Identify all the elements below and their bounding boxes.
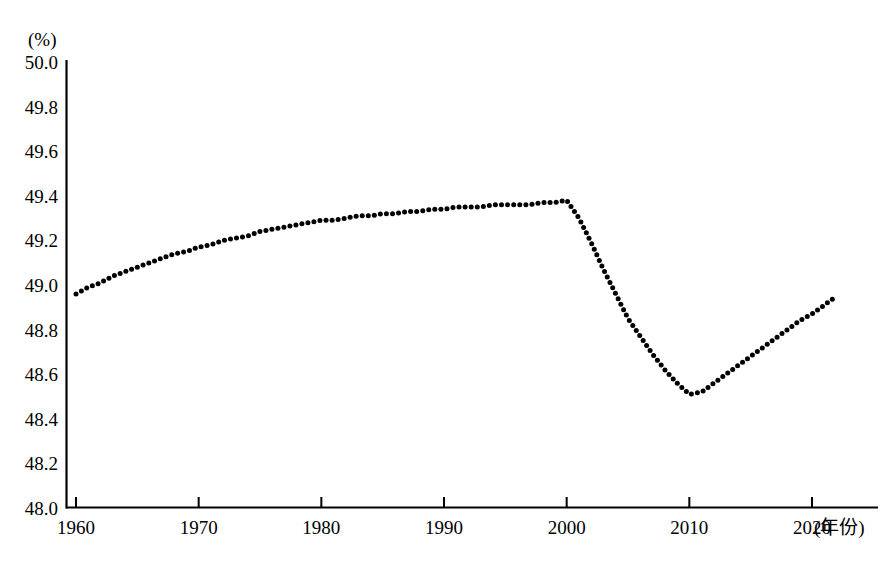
series-dot [299, 221, 304, 226]
series-dot [695, 390, 700, 395]
series-dot [305, 220, 310, 225]
data-series-dotted-line [74, 199, 835, 397]
series-dot [123, 269, 128, 274]
series-dot [765, 342, 770, 347]
series-dot [317, 218, 322, 223]
series-dot [535, 201, 540, 206]
series-dot [152, 258, 157, 263]
series-dot [348, 215, 353, 220]
y-axis-tick-label: 49.8 [0, 97, 58, 116]
series-dot [263, 228, 268, 233]
series-dot [529, 202, 534, 207]
series-dot [146, 260, 151, 265]
series-dot [710, 381, 715, 386]
series-dot [679, 385, 684, 390]
series-dot [384, 211, 389, 216]
series-dot [360, 213, 365, 218]
series-dot [568, 204, 573, 209]
series-dot [725, 371, 730, 376]
series-dot [613, 291, 618, 296]
series-dot [684, 389, 689, 394]
series-dot [671, 376, 676, 381]
series-dot [444, 206, 449, 211]
series-dot [740, 360, 745, 365]
series-dot [199, 244, 204, 249]
series-dot [651, 353, 656, 358]
series-dot [487, 203, 492, 208]
series-dot [554, 200, 559, 205]
series-dot [784, 327, 789, 332]
series-dot [90, 283, 95, 288]
series-dot [169, 252, 174, 257]
series-dot [336, 217, 341, 222]
series-dot [74, 291, 79, 296]
series-dot [706, 385, 711, 390]
series-dot [755, 349, 760, 354]
series-dot [701, 388, 706, 393]
series-dot [469, 204, 474, 209]
series-dot [205, 243, 210, 248]
series-dot [599, 263, 604, 268]
series-dot [578, 219, 583, 224]
series-dot [366, 213, 371, 218]
series-dot [735, 363, 740, 368]
y-axis-tick-label: 48.0 [0, 499, 58, 518]
series-dot [287, 224, 292, 229]
series-dot [675, 381, 680, 386]
series-dot [354, 214, 359, 219]
series-dot [760, 345, 765, 350]
series-dot [542, 200, 547, 205]
series-dot [390, 211, 395, 216]
series-dot [84, 286, 89, 291]
series-dot [481, 204, 486, 209]
series-dot [246, 233, 251, 238]
series-dot [616, 296, 621, 301]
series-dot [432, 207, 437, 212]
series-dot [475, 204, 480, 209]
series-dot [141, 263, 146, 268]
series-dot [181, 250, 186, 255]
series-dot [689, 391, 694, 396]
series-dot [293, 222, 298, 227]
series-dot [228, 237, 233, 242]
series-dot [517, 202, 522, 207]
series-dot [607, 280, 612, 285]
y-axis-tick-label: 49.0 [0, 276, 58, 295]
series-dot [275, 226, 280, 231]
x-axis-tick-label: 1970 [180, 518, 218, 537]
series-dot [621, 307, 626, 312]
series-dot [587, 236, 592, 241]
series-dot [794, 320, 799, 325]
series-dot [715, 378, 720, 383]
series-dot [164, 254, 169, 259]
series-dot [222, 238, 227, 243]
series-dot [624, 313, 629, 318]
series-dot [523, 202, 528, 207]
series-dot [499, 202, 504, 207]
y-axis-tick-label: 50.0 [0, 53, 58, 72]
series-dot [311, 219, 316, 224]
series-dot [605, 274, 610, 279]
series-dot [565, 199, 570, 204]
series-dot [402, 209, 407, 214]
series-dot [730, 367, 735, 372]
series-dot [572, 209, 577, 214]
series-dot [420, 208, 425, 213]
series-dot [662, 367, 667, 372]
x-axis-tick-label: 1980 [302, 518, 340, 537]
series-dot [129, 267, 134, 272]
series-dot [597, 258, 602, 263]
series-dot [158, 256, 163, 261]
series-dot [450, 205, 455, 210]
series-dot [511, 202, 516, 207]
series-dot [463, 204, 468, 209]
series-dot [135, 265, 140, 270]
series-dot [112, 273, 117, 278]
x-axis-tick-label: 1990 [425, 518, 463, 537]
y-axis-tick-label: 48.8 [0, 320, 58, 339]
series-dot [659, 363, 664, 368]
series-dot [118, 271, 123, 276]
series-dot [799, 317, 804, 322]
series-dot [825, 300, 830, 305]
series-dot [592, 247, 597, 252]
